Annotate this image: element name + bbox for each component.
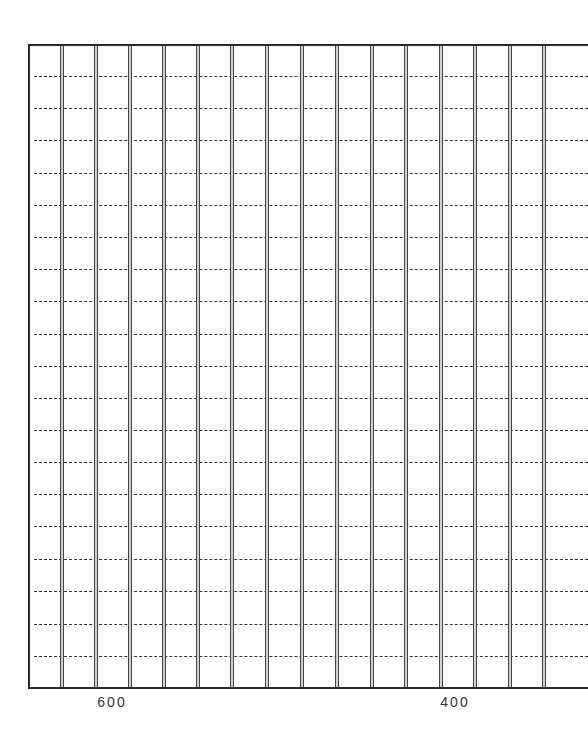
dashed-gridline bbox=[34, 624, 588, 625]
x-axis-label: 400 bbox=[440, 694, 469, 710]
double-gridline bbox=[230, 46, 234, 687]
dashed-gridline bbox=[34, 334, 588, 335]
double-gridline bbox=[335, 46, 339, 687]
dashed-gridline bbox=[34, 108, 588, 109]
dashed-gridline bbox=[34, 430, 588, 431]
dashed-gridline bbox=[34, 301, 588, 302]
dashed-gridline bbox=[34, 237, 588, 238]
dashed-gridline bbox=[34, 559, 588, 560]
double-gridline bbox=[265, 46, 269, 687]
dashed-gridline bbox=[34, 173, 588, 174]
dashed-gridline bbox=[34, 656, 588, 657]
double-gridline bbox=[542, 46, 546, 687]
dashed-gridline bbox=[34, 398, 588, 399]
double-gridline bbox=[370, 46, 374, 687]
double-gridline bbox=[508, 46, 512, 687]
double-gridline bbox=[196, 46, 200, 687]
double-gridline bbox=[404, 46, 408, 687]
x-axis-label: 600 bbox=[97, 694, 126, 710]
double-gridline bbox=[60, 46, 64, 687]
double-gridline bbox=[439, 46, 443, 687]
dashed-gridline bbox=[34, 140, 588, 141]
double-gridline bbox=[162, 46, 166, 687]
grid-chart-frame bbox=[28, 44, 588, 689]
dashed-gridline bbox=[34, 462, 588, 463]
dashed-gridline bbox=[34, 269, 588, 270]
dashed-gridline bbox=[34, 526, 588, 527]
double-gridline bbox=[300, 46, 304, 687]
double-gridline bbox=[128, 46, 132, 687]
dashed-gridline bbox=[34, 205, 588, 206]
double-gridline bbox=[473, 46, 477, 687]
dashed-gridline bbox=[34, 591, 588, 592]
double-gridline bbox=[94, 46, 98, 687]
dashed-gridline bbox=[34, 494, 588, 495]
dashed-gridline bbox=[34, 366, 588, 367]
dashed-gridline bbox=[34, 76, 588, 77]
